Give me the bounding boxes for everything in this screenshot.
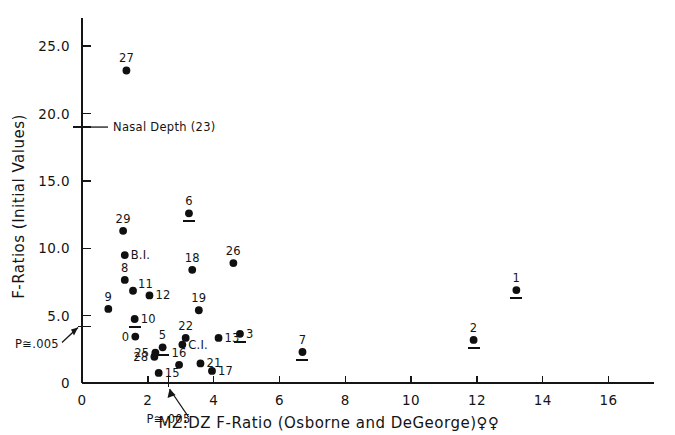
y-tick-label: 20.0 [38, 106, 70, 122]
data-point[interactable]: 9 [104, 290, 112, 313]
data-point-label: 11 [138, 277, 153, 291]
data-point-label: 0 [122, 330, 130, 344]
x-tick-label: 14 [534, 392, 552, 408]
data-point[interactable]: 1 [510, 271, 522, 298]
data-point-marker [131, 333, 139, 341]
data-point[interactable]: 7 [296, 333, 308, 360]
data-point-label: 15 [165, 366, 180, 380]
p-value-y-label: P≅.005 [15, 337, 59, 351]
data-point-marker [185, 209, 193, 217]
nasal-depth-label: Nasal Depth (23) [113, 120, 216, 134]
data-point[interactable]: 13 [215, 331, 240, 345]
data-point-marker [229, 259, 237, 267]
x-tick-label: 8 [341, 392, 350, 408]
x-tick-label: 12 [468, 392, 486, 408]
data-point-marker [470, 336, 478, 344]
data-point-label: 16 [172, 346, 187, 360]
data-point-label: 8 [121, 261, 129, 275]
data-point[interactable]: 6 [183, 194, 195, 221]
p-value-y-arrowhead [71, 327, 78, 335]
data-point-marker [215, 334, 223, 342]
data-point-label: C.I. [188, 338, 208, 352]
data-point-label: 12 [155, 288, 170, 302]
data-point-marker [146, 292, 154, 300]
y-tick-label: 25.0 [38, 38, 70, 54]
data-point-label: 27 [119, 51, 134, 65]
data-point-label: 1 [513, 271, 521, 285]
data-point-marker [299, 348, 307, 356]
y-tick-label: 5.0 [47, 308, 70, 324]
data-point-label: 13 [225, 331, 240, 345]
x-tick-label: 2 [143, 392, 152, 408]
data-point-label: 2 [470, 321, 478, 335]
x-axis-title: MZ:DZ F-Ratio (Osborne and DeGeorge)♀♀ [158, 414, 499, 432]
data-point-marker [155, 369, 163, 377]
data-point[interactable]: 0 [122, 330, 139, 344]
data-point[interactable]: 26 [226, 244, 241, 267]
y-tick-label: 0 [61, 375, 70, 391]
data-point-label: 10 [141, 312, 156, 326]
data-point-label: 5 [159, 328, 167, 342]
data-point-label: 29 [116, 212, 131, 226]
data-point[interactable]: 15 [155, 366, 180, 380]
data-point-marker [208, 367, 216, 375]
data-point-marker [195, 306, 203, 314]
x-tick-label: 10 [402, 392, 420, 408]
data-point-marker [159, 343, 167, 351]
data-point[interactable]: B.I. [121, 248, 150, 262]
scatter-plot-figure: 024681012141605.010.015.020.025.0MZ:DZ F… [0, 0, 675, 435]
data-point-marker [188, 266, 196, 274]
plot-canvas: 024681012141605.010.015.020.025.0MZ:DZ F… [0, 0, 675, 435]
data-point-marker [121, 251, 129, 259]
x-tick-label: 16 [600, 392, 618, 408]
data-point-label: 7 [299, 333, 307, 347]
data-point-label: 19 [191, 291, 206, 305]
y-tick-label: 15.0 [38, 173, 70, 189]
p-value-x-label: P≅.005 [147, 412, 191, 426]
data-point[interactable]: 18 [185, 251, 200, 274]
data-point[interactable]: 27 [119, 51, 134, 74]
x-tick-label: 4 [209, 392, 218, 408]
data-point-label: 6 [185, 194, 193, 208]
data-point-marker [104, 305, 112, 313]
data-point-label: 3 [246, 327, 254, 341]
data-point-marker [123, 67, 131, 75]
data-point-label: B.I. [131, 248, 150, 262]
y-tick-label: 10.0 [38, 240, 70, 256]
data-point-label: 28 [133, 350, 148, 364]
data-point[interactable]: 2 [468, 321, 480, 348]
data-point-label: 9 [105, 290, 113, 304]
y-axis-title: F-Ratios (Initial Values) [10, 114, 28, 299]
data-point-label: 22 [178, 319, 193, 333]
data-point-label: 17 [218, 364, 233, 378]
data-point-label: 18 [185, 251, 200, 265]
data-point[interactable]: 8 [121, 261, 129, 284]
data-point-marker [119, 227, 127, 235]
x-tick-label: 6 [275, 392, 284, 408]
data-point-marker [129, 287, 137, 295]
data-point-marker [512, 286, 520, 294]
data-point-marker [131, 315, 139, 323]
data-point-marker [121, 276, 129, 284]
data-point-marker [197, 360, 205, 368]
x-tick-label: 0 [78, 392, 87, 408]
data-point[interactable]: 19 [191, 291, 206, 314]
data-point-label: 26 [226, 244, 241, 258]
data-point-marker [150, 353, 158, 361]
data-point[interactable]: 10 [129, 312, 156, 327]
data-point[interactable]: 29 [116, 212, 131, 235]
